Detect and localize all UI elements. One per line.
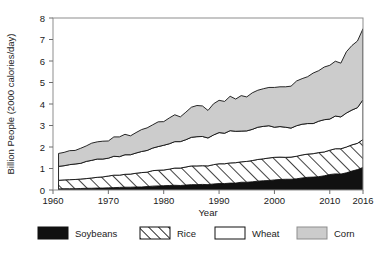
legend-label-corn: Corn [334, 228, 355, 239]
y-axis: 012345678 [40, 13, 53, 196]
y-tick-label: 6 [40, 56, 45, 67]
y-tick-label: 2 [40, 142, 45, 153]
x-tick-label: 2000 [264, 195, 285, 206]
y-tick-label: 3 [40, 120, 45, 131]
gray-swatch [297, 227, 327, 239]
y-tick-label: 4 [40, 99, 45, 110]
area-chart: 012345678 1960197019801990200020102016 B… [0, 0, 382, 254]
solid-black-swatch [38, 227, 68, 239]
y-tick-label: 8 [40, 13, 45, 24]
white-swatch [215, 227, 245, 239]
legend-label-soybeans: Soybeans [75, 228, 118, 239]
legend-label-rice: Rice [177, 228, 196, 239]
x-tick-label: 1960 [42, 195, 63, 206]
chart-legend: Soybeans Rice Wheat Corn [38, 227, 355, 239]
x-tick-label: 1990 [209, 195, 230, 206]
diagonal-hatch-swatch [140, 227, 170, 239]
legend-label-wheat: Wheat [252, 228, 280, 239]
x-tick-label: 2016 [352, 195, 373, 206]
y-tick-label: 5 [40, 77, 45, 88]
x-tick-label: 1980 [153, 195, 174, 206]
x-tick-label: 1970 [98, 195, 119, 206]
x-axis-title: Year [198, 207, 217, 218]
y-tick-label: 7 [40, 34, 45, 45]
chart-figure: 012345678 1960197019801990200020102016 B… [0, 0, 382, 254]
y-tick-label: 0 [40, 185, 45, 196]
y-axis-title: Billion People (2000 calories/day) [5, 34, 16, 175]
x-axis: 1960197019801990200020102016 [42, 190, 373, 206]
x-tick-label: 2010 [319, 195, 340, 206]
y-tick-label: 1 [40, 163, 45, 174]
